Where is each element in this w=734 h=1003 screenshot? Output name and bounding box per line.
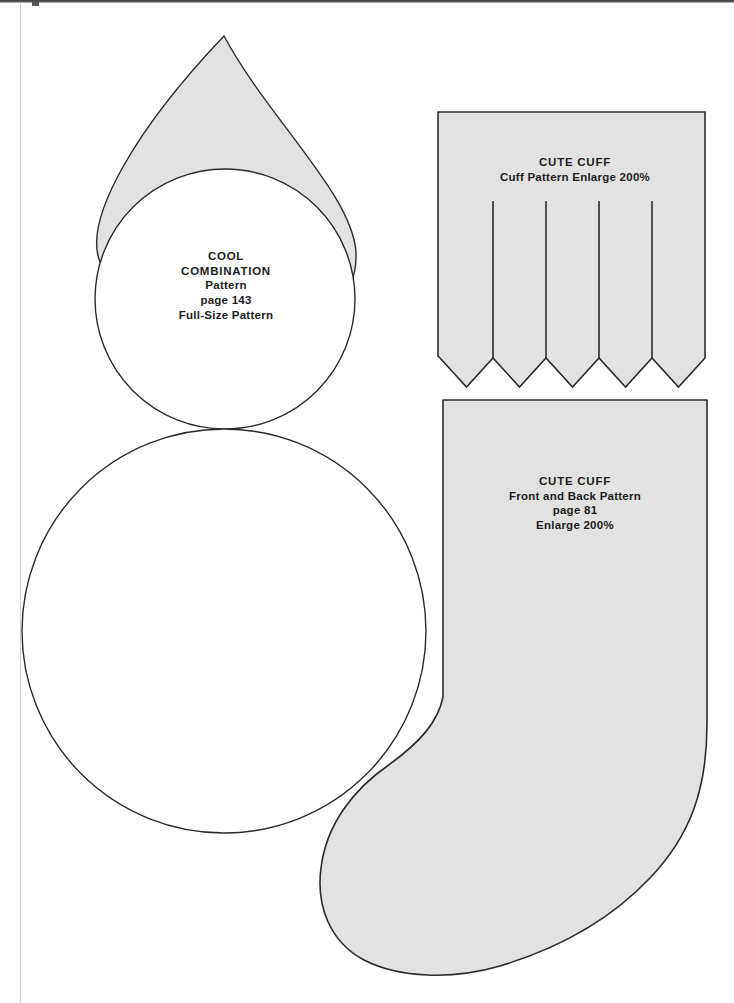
cuff-body-label-line-2: Front and Back Pattern [443, 489, 707, 504]
cool-label-line-1: COOL [128, 249, 324, 264]
scan-tick-mark [32, 2, 39, 6]
lower-circle-outline [22, 429, 426, 833]
cool-label-line-3: Pattern [128, 278, 324, 293]
cool-label-line-2: COMBINATION [128, 264, 324, 279]
pattern-sheet-page: COOL COMBINATION Pattern page 143 Full-S… [0, 0, 734, 1003]
pattern-cute-cuff-top [438, 112, 705, 387]
cuff-body-label-line-3: page 81 [443, 503, 707, 518]
cuff-top-label-line-2: Cuff Pattern Enlarge 200% [443, 170, 707, 185]
cool-label-line-5: Full-Size Pattern [128, 308, 324, 323]
scan-top-edge [0, 0, 734, 3]
scan-left-edge [20, 2, 21, 1003]
label-cute-cuff-body: CUTE CUFF Front and Back Pattern page 81… [443, 474, 707, 533]
label-cute-cuff-top: CUTE CUFF Cuff Pattern Enlarge 200% [443, 155, 707, 184]
cuff-body-label-line-4: Enlarge 200% [443, 518, 707, 533]
cool-label-line-4: page 143 [128, 293, 324, 308]
cuff-top-label-line-1: CUTE CUFF [443, 155, 707, 170]
pattern-cool-combination [22, 36, 426, 833]
cuff-zigzag-shape [438, 112, 705, 387]
label-cool-combination: COOL COMBINATION Pattern page 143 Full-S… [128, 249, 324, 323]
cuff-body-label-line-1: CUTE CUFF [443, 474, 707, 489]
